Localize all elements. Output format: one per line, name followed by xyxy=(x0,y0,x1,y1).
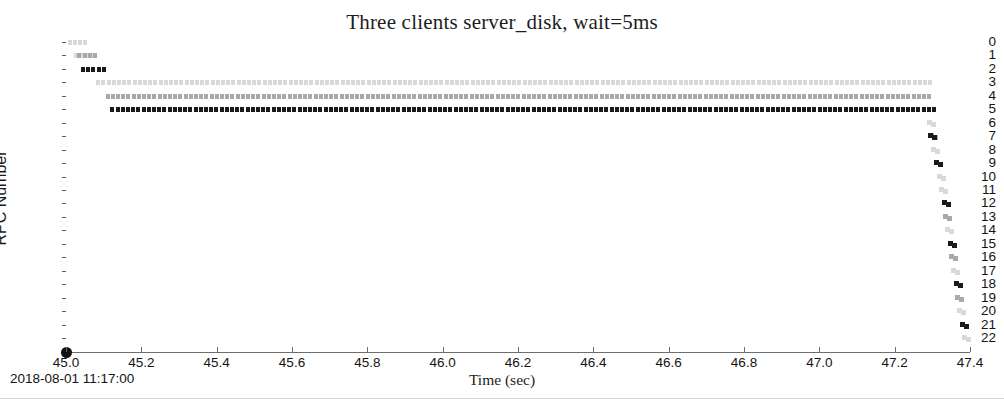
data-marker xyxy=(793,80,797,85)
data-marker xyxy=(292,107,296,112)
data-marker xyxy=(314,94,318,99)
data-marker xyxy=(471,80,475,85)
data-marker xyxy=(755,107,759,112)
data-marker xyxy=(152,107,156,112)
data-marker xyxy=(559,80,563,85)
data-marker xyxy=(110,107,114,112)
data-marker xyxy=(502,80,506,85)
data-marker xyxy=(808,94,812,99)
data-marker xyxy=(106,94,110,99)
data-marker xyxy=(771,107,775,112)
data-marker xyxy=(549,80,553,85)
data-marker xyxy=(424,80,428,85)
data-marker xyxy=(604,107,608,112)
y-tick-mark xyxy=(62,69,66,70)
data-marker xyxy=(169,80,173,85)
data-marker xyxy=(501,94,505,99)
data-marker xyxy=(251,94,255,99)
data-marker xyxy=(495,107,499,112)
data-marker xyxy=(315,80,319,85)
data-marker xyxy=(547,107,551,112)
y-tick-label: 5 xyxy=(966,102,996,116)
data-marker xyxy=(668,80,672,85)
data-marker xyxy=(398,80,402,85)
x-tick-label: 45.4 xyxy=(187,355,247,370)
data-marker xyxy=(287,107,291,112)
data-marker xyxy=(386,94,390,99)
y-tick-label: 10 xyxy=(966,170,996,184)
data-marker xyxy=(705,80,709,85)
data-marker xyxy=(829,80,833,85)
data-marker xyxy=(240,107,244,112)
data-marker xyxy=(828,107,832,112)
y-tick-mark xyxy=(62,177,66,178)
data-marker xyxy=(823,94,827,99)
data-marker xyxy=(308,107,312,112)
data-marker xyxy=(393,80,397,85)
x-tick-mark xyxy=(970,347,971,352)
data-marker xyxy=(148,80,152,85)
data-marker xyxy=(761,94,765,99)
data-marker xyxy=(653,80,657,85)
data-marker xyxy=(221,80,225,85)
data-marker xyxy=(272,94,276,99)
data-marker xyxy=(226,80,230,85)
data-marker xyxy=(486,80,490,85)
y-tick-mark xyxy=(62,230,66,231)
data-marker xyxy=(532,94,536,99)
data-marker xyxy=(850,80,854,85)
data-marker xyxy=(372,80,376,85)
data-marker xyxy=(469,107,473,112)
data-marker xyxy=(719,107,723,112)
data-marker xyxy=(952,243,957,248)
data-marker xyxy=(443,107,447,112)
data-marker xyxy=(574,94,578,99)
data-marker xyxy=(528,80,532,85)
data-marker xyxy=(126,94,130,99)
data-marker xyxy=(475,94,479,99)
data-marker xyxy=(906,94,910,99)
data-marker xyxy=(600,94,604,99)
y-tick-mark xyxy=(62,338,66,339)
data-marker xyxy=(500,107,504,112)
data-marker xyxy=(523,80,527,85)
data-marker xyxy=(189,94,193,99)
data-marker xyxy=(897,80,901,85)
data-marker xyxy=(864,107,868,112)
data-marker xyxy=(298,94,302,99)
data-marker xyxy=(928,80,932,85)
data-marker xyxy=(813,94,817,99)
data-marker xyxy=(589,107,593,112)
data-marker xyxy=(637,80,641,85)
data-marker xyxy=(797,107,801,112)
data-marker xyxy=(953,256,958,261)
data-marker xyxy=(220,94,224,99)
data-marker xyxy=(569,80,573,85)
data-marker xyxy=(127,80,131,85)
data-marker xyxy=(277,94,281,99)
data-marker xyxy=(329,94,333,99)
data-marker xyxy=(590,80,594,85)
data-marker xyxy=(459,94,463,99)
data-marker xyxy=(304,80,308,85)
data-marker xyxy=(91,67,95,72)
data-marker xyxy=(646,107,650,112)
data-marker xyxy=(615,94,619,99)
data-marker xyxy=(938,162,943,167)
data-marker xyxy=(355,107,359,112)
data-marker xyxy=(138,80,142,85)
data-marker xyxy=(767,80,771,85)
data-marker xyxy=(93,53,97,58)
data-marker xyxy=(949,229,954,234)
data-marker xyxy=(787,94,791,99)
data-marker xyxy=(792,107,796,112)
data-marker xyxy=(267,94,271,99)
data-marker xyxy=(190,80,194,85)
data-marker xyxy=(845,80,849,85)
data-marker xyxy=(740,94,744,99)
data-marker xyxy=(809,80,813,85)
data-marker xyxy=(642,80,646,85)
x-tick-mark xyxy=(66,347,67,352)
data-marker xyxy=(890,107,894,112)
data-marker xyxy=(299,80,303,85)
